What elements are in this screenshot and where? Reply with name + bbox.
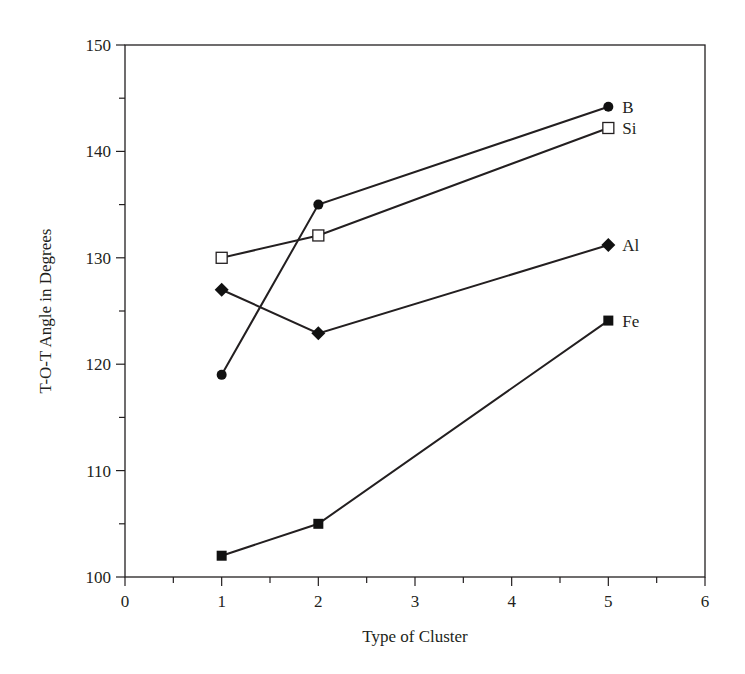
diamond-marker	[215, 283, 229, 297]
x-tick-label: 3	[411, 592, 420, 611]
series-al	[215, 238, 616, 340]
y-axis-title: T-O-T Angle in Degrees	[36, 229, 55, 394]
x-tick-label: 4	[507, 592, 516, 611]
data-series	[215, 102, 616, 561]
circle-marker	[313, 200, 323, 210]
y-axis: 100110120130140150	[86, 36, 126, 587]
y-tick-label: 140	[86, 142, 112, 161]
x-tick-label: 2	[314, 592, 323, 611]
plot-frame	[125, 45, 705, 577]
series-label-si: Si	[622, 119, 636, 138]
series-line	[222, 128, 609, 258]
y-tick-label: 130	[86, 249, 112, 268]
y-tick-label: 120	[86, 355, 112, 374]
plot-border	[125, 45, 705, 577]
x-tick-label: 0	[121, 592, 130, 611]
open-square-marker	[603, 122, 614, 133]
series-label-fe: Fe	[622, 312, 639, 331]
square-marker	[217, 551, 227, 561]
x-axis-title: Type of Cluster	[362, 627, 468, 646]
line-chart: 0123456 100110120130140150 BSiAlFe Type …	[0, 0, 745, 674]
diamond-marker	[311, 326, 325, 340]
series-line	[222, 107, 609, 375]
x-axis: 0123456	[121, 577, 710, 611]
y-tick-label: 110	[86, 462, 111, 481]
series-line	[222, 321, 609, 556]
x-tick-label: 5	[604, 592, 613, 611]
diamond-marker	[601, 238, 615, 252]
circle-marker	[603, 102, 613, 112]
square-marker	[603, 316, 613, 326]
series-line	[222, 245, 609, 333]
series-label-b: B	[622, 98, 633, 117]
series-labels: BSiAlFe	[622, 98, 639, 331]
circle-marker	[217, 370, 227, 380]
square-marker	[313, 519, 323, 529]
series-si	[216, 122, 614, 263]
open-square-marker	[216, 252, 227, 263]
x-tick-label: 6	[701, 592, 710, 611]
x-tick-label: 1	[217, 592, 226, 611]
series-fe	[217, 316, 614, 561]
y-tick-label: 150	[86, 36, 112, 55]
open-square-marker	[313, 230, 324, 241]
y-tick-label: 100	[86, 568, 112, 587]
series-label-al: Al	[622, 236, 639, 255]
series-b	[217, 102, 614, 380]
